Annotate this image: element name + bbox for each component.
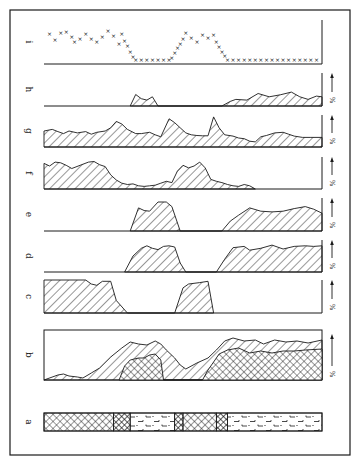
marker-icon: ⨯ [231, 56, 236, 63]
panel-label-g: g [24, 128, 34, 134]
marker-icon: ⨯ [78, 35, 83, 42]
panel-label-h: h [24, 87, 34, 93]
panel-a: a [24, 413, 323, 431]
marker-icon: ⨯ [100, 33, 105, 40]
marker-icon: ⨯ [150, 56, 155, 63]
marker-icon: ⨯ [64, 28, 69, 35]
marker-icon: ⨯ [258, 56, 263, 63]
panel-d: d% [24, 240, 337, 272]
marker-icon: ⨯ [253, 56, 258, 63]
marker-icon: ⨯ [275, 56, 280, 63]
panel-f: f% [24, 157, 337, 189]
lithology-segment [216, 413, 227, 431]
marker-icon: ⨯ [133, 56, 138, 63]
marker-icon: ⨯ [183, 29, 188, 36]
marker-icon: ⨯ [225, 56, 230, 63]
lithology-segment [183, 413, 216, 431]
marker-icon: ⨯ [206, 34, 211, 41]
panel-label-c: c [24, 294, 34, 299]
marker-icon: ⨯ [292, 56, 297, 63]
panel-label-b: b [24, 352, 34, 358]
panel-h: h% [24, 73, 337, 106]
marker-icon: ⨯ [281, 56, 286, 63]
marker-icon: ⨯ [89, 35, 94, 42]
lithology-segment [44, 413, 114, 431]
panel-label-i: i [24, 41, 34, 44]
percent-label: % [328, 222, 336, 229]
marker-icon: ⨯ [111, 32, 116, 39]
panels-group: i⨯⨯⨯⨯⨯⨯⨯⨯⨯⨯⨯⨯⨯⨯⨯⨯⨯⨯⨯⨯⨯⨯⨯⨯⨯⨯⨯⨯⨯⨯⨯⨯⨯⨯⨯⨯⨯⨯⨯… [24, 20, 337, 431]
panel-e: e% [24, 198, 337, 231]
panel-label-a: a [24, 419, 34, 425]
marker-icon: ⨯ [314, 56, 319, 63]
marker-icon: ⨯ [47, 30, 52, 37]
panel-label-f: f [24, 171, 34, 175]
panel-b: b% [24, 330, 337, 380]
percent-label: % [328, 304, 336, 311]
area-series-g [44, 117, 322, 147]
marker-icon: ⨯ [236, 56, 241, 63]
marker-icon: ⨯ [161, 56, 166, 63]
marker-icon: ⨯ [53, 36, 58, 43]
marker-icon: ⨯ [264, 56, 269, 63]
marker-icon: ⨯ [189, 34, 194, 41]
percent-label: % [328, 180, 336, 187]
lithology-segment [114, 413, 131, 431]
percent-label: % [328, 97, 336, 104]
panel-label-d: d [24, 253, 34, 259]
panel-g: g% [24, 115, 337, 147]
marker-icon: ⨯ [211, 31, 216, 38]
marker-icon: ⨯ [72, 38, 77, 45]
percent-label: % [328, 263, 336, 270]
stratigraphic-diagram: i⨯⨯⨯⨯⨯⨯⨯⨯⨯⨯⨯⨯⨯⨯⨯⨯⨯⨯⨯⨯⨯⨯⨯⨯⨯⨯⨯⨯⨯⨯⨯⨯⨯⨯⨯⨯⨯⨯⨯… [0, 0, 364, 467]
lithology-segment [227, 413, 322, 431]
marker-icon: ⨯ [247, 56, 252, 63]
marker-icon: ⨯ [308, 56, 313, 63]
marker-icon: ⨯ [200, 31, 205, 38]
marker-icon: ⨯ [269, 56, 274, 63]
marker-icon: ⨯ [58, 29, 63, 36]
marker-icon: ⨯ [144, 56, 149, 63]
panel-c: c% [24, 280, 337, 313]
marker-icon: ⨯ [303, 56, 308, 63]
marker-icon: ⨯ [139, 56, 144, 63]
marker-icon: ⨯ [94, 38, 99, 45]
marker-icon: ⨯ [286, 56, 291, 63]
area-series-h [130, 92, 322, 106]
lithology-segment [175, 413, 183, 431]
figure-frame [10, 10, 350, 455]
marker-icon: ⨯ [242, 56, 247, 63]
area-series-e [130, 202, 322, 231]
marker-icon: ⨯ [155, 56, 160, 63]
marker-icon: ⨯ [83, 30, 88, 37]
marker-icon: ⨯ [194, 38, 199, 45]
panel-label-e: e [24, 212, 34, 217]
percent-label: % [328, 371, 336, 378]
marker-icon: ⨯ [105, 27, 110, 34]
marker-icon: ⨯ [117, 40, 122, 47]
area-series-c [44, 280, 214, 313]
area-series-f [44, 162, 255, 190]
panel-i: i⨯⨯⨯⨯⨯⨯⨯⨯⨯⨯⨯⨯⨯⨯⨯⨯⨯⨯⨯⨯⨯⨯⨯⨯⨯⨯⨯⨯⨯⨯⨯⨯⨯⨯⨯⨯⨯⨯⨯… [24, 20, 323, 64]
marker-icon: ⨯ [297, 56, 302, 63]
percent-label: % [328, 138, 336, 145]
lithology-segment [130, 413, 174, 431]
area-series-d [125, 245, 322, 272]
